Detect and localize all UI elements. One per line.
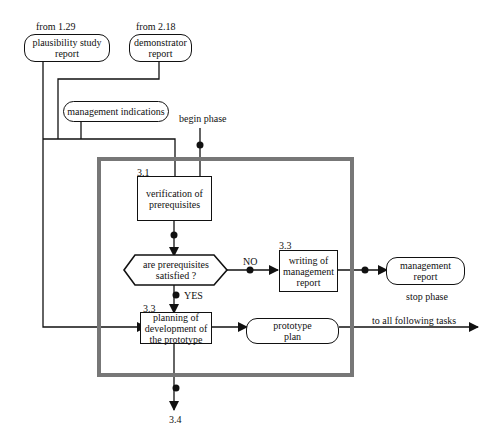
plausibility-study-report-node[interactable]: plausibility study report xyxy=(24,34,110,62)
prototype-plan-node[interactable]: prototype plan xyxy=(246,318,339,344)
source-label-plausibility: from 1.29 xyxy=(36,21,75,32)
decision-label[interactable]: are prerequisites satisfied ? xyxy=(130,259,222,281)
stop-phase-label: stop phase xyxy=(406,291,448,302)
begin-phase-label: begin phase xyxy=(179,113,227,124)
node-label: planning of xyxy=(153,312,199,323)
node-label: plan xyxy=(284,331,301,342)
node-label: report xyxy=(297,277,321,288)
yes-branch-label: YES xyxy=(184,290,203,301)
no-branch-label: NO xyxy=(243,256,257,267)
node-label: management indications xyxy=(67,106,164,117)
node-label: report xyxy=(55,48,79,59)
node-label: plausibility study xyxy=(32,37,101,48)
next-task-label: 3.4 xyxy=(169,414,182,425)
management-indications-node[interactable]: management indications xyxy=(63,101,169,122)
source-label-demonstrator: from 2.18 xyxy=(136,21,175,32)
node-label: report xyxy=(414,271,438,282)
node-label: the prototype xyxy=(149,334,202,345)
node-label: report xyxy=(149,48,173,59)
decision-line1: are prerequisites xyxy=(130,259,222,270)
node-label: demonstrator xyxy=(134,37,187,48)
writing-management-report-node[interactable]: writing of management report xyxy=(279,250,338,292)
demonstrator-report-node[interactable]: demonstrator report xyxy=(129,34,192,62)
node-label: writing of xyxy=(289,255,329,266)
node-label: verification of xyxy=(146,188,203,199)
management-report-output-node[interactable]: management report xyxy=(386,257,465,285)
verification-of-prerequisites-node[interactable]: verification of prerequisites xyxy=(137,176,212,221)
node-label: prerequisites xyxy=(149,199,200,210)
decision-line2: satisfied ? xyxy=(130,270,222,281)
planning-development-prototype-node[interactable]: planning of development of the prototype xyxy=(140,312,212,344)
node-label: management xyxy=(283,266,334,277)
following-tasks-label: to all following tasks xyxy=(372,315,456,326)
node-label: prototype xyxy=(273,320,311,331)
node-label: management xyxy=(400,260,451,271)
node-label: development of xyxy=(145,323,207,334)
